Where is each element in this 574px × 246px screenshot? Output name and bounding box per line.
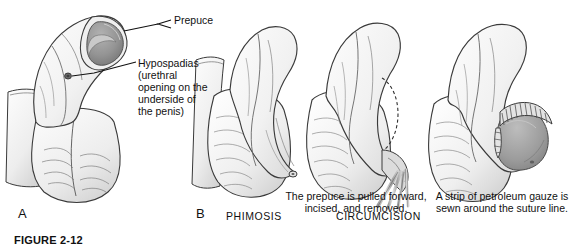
procedure-name-phimosis: PHIMOSIS [226, 210, 282, 222]
caption-petroleum-gauze: A strip of petroleum gauze is sewn aroun… [432, 190, 572, 214]
panel-letter-b: B [196, 206, 205, 221]
panel-letter-a: A [18, 206, 27, 221]
panel-c-drawing [307, 23, 408, 208]
panel-d-drawing [429, 24, 552, 201]
label-prepuce: Prepuce [174, 14, 213, 26]
panel-b-drawing [192, 27, 297, 198]
figure-caption: FIGURE 2-12 [14, 234, 83, 246]
label-hypospadias: Hypospadias (urethral opening on the und… [138, 57, 207, 117]
procedure-name-circumcision: CIRCUMCISION [336, 210, 421, 222]
